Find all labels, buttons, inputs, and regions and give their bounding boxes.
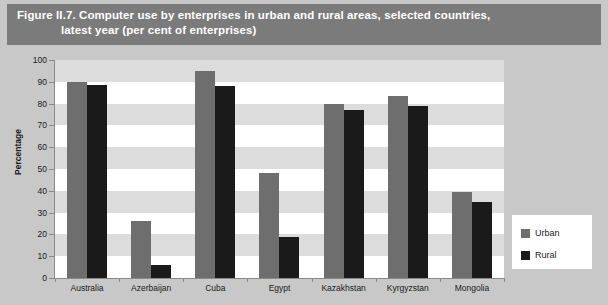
- x-axis-tick: [55, 278, 56, 282]
- figure-title-line-2: latest year (per cent of enterprises): [17, 23, 591, 38]
- x-axis-tick: [312, 278, 313, 282]
- bar-group: [312, 60, 376, 278]
- y-axis-tick-label: 100: [9, 55, 47, 65]
- y-axis-line: [54, 60, 55, 279]
- x-axis-tick: [504, 278, 505, 282]
- y-axis-tick-label: 80: [9, 99, 47, 109]
- figure-title-line-1: Figure II.7. Computer use by enterprises…: [17, 8, 591, 23]
- figure-title-band: Figure II.7. Computer use by enterprises…: [7, 4, 601, 45]
- x-axis-tick: [376, 278, 377, 282]
- bar-group: [119, 60, 183, 278]
- legend-swatch-urban-icon: [521, 229, 530, 238]
- x-axis-tick: [247, 278, 248, 282]
- y-axis-tick: [49, 213, 54, 214]
- y-axis-tick-label: 90: [9, 77, 47, 87]
- legend-label-rural: Rural: [535, 250, 557, 260]
- bar-urban-kyrgyzstan: [388, 96, 408, 278]
- bar-rural-azerbaijan: [151, 265, 171, 278]
- bar-group: [440, 60, 504, 278]
- y-axis-tick-label: 40: [9, 186, 47, 196]
- y-axis-tick: [49, 60, 54, 61]
- y-axis-tick: [49, 256, 54, 257]
- legend-swatch-rural-icon: [521, 251, 530, 260]
- bar-urban-azerbaijan: [131, 221, 151, 278]
- bar-group: [55, 60, 119, 278]
- x-axis-tick: [119, 278, 120, 282]
- bar-rural-kazakhstan: [344, 110, 364, 278]
- bar-urban-australia: [67, 82, 87, 278]
- y-axis-tick: [49, 234, 54, 235]
- bar-urban-egypt: [259, 173, 279, 278]
- bar-urban-cuba: [195, 71, 215, 278]
- y-axis-tick: [49, 278, 54, 279]
- bar-urban-mongolia: [452, 192, 472, 278]
- y-axis-tick: [49, 82, 54, 83]
- x-axis-tick: [183, 278, 184, 282]
- y-axis-tick-label: 20: [9, 229, 47, 239]
- y-axis-tick-label: 0: [9, 273, 47, 283]
- bar-group: [247, 60, 311, 278]
- x-axis-line: [54, 278, 505, 279]
- legend-label-urban: Urban: [535, 228, 560, 238]
- y-axis-tick-label: 30: [9, 208, 47, 218]
- bar-rural-cuba: [215, 86, 235, 278]
- chart-frame: Percentage 0102030405060708090100 Austra…: [7, 49, 601, 299]
- x-axis-label-mongolia: Mongolia: [426, 283, 518, 293]
- y-axis-tick: [49, 104, 54, 105]
- y-axis-tick-label: 10: [9, 251, 47, 261]
- y-axis-tick: [49, 147, 54, 148]
- bar-rural-egypt: [279, 237, 299, 278]
- plot-area: [55, 60, 504, 278]
- bar-rural-kyrgyzstan: [408, 106, 428, 278]
- y-axis-tick-label: 60: [9, 142, 47, 152]
- figure-container: Figure II.7. Computer use by enterprises…: [0, 0, 608, 305]
- x-axis-tick: [440, 278, 441, 282]
- legend-entry-rural: Rural: [521, 246, 592, 264]
- chart-legend: Urban Rural: [512, 215, 592, 269]
- bar-urban-kazakhstan: [324, 104, 344, 278]
- bar-group: [183, 60, 247, 278]
- y-axis-tick: [49, 169, 54, 170]
- y-axis-tick-label: 70: [9, 120, 47, 130]
- y-axis-tick-label: 50: [9, 164, 47, 174]
- y-axis-tick: [49, 125, 54, 126]
- y-axis-labels: 0102030405060708090100: [7, 49, 47, 299]
- bar-rural-australia: [87, 85, 107, 278]
- bar-group: [376, 60, 440, 278]
- legend-entry-urban: Urban: [521, 224, 592, 242]
- y-axis-tick: [49, 191, 54, 192]
- bar-rural-mongolia: [472, 202, 492, 278]
